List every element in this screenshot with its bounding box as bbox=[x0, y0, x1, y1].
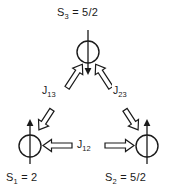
spin-triangle-figure: S3 = 5/2 S1 = 2 S2 = 5/2 J13 J23 J12 bbox=[0, 0, 179, 193]
spin-label-s2: S2 = 5/2 bbox=[105, 171, 146, 183]
spin-arrowhead-s2-up bbox=[144, 119, 151, 126]
coupling-label-j12-subscript: 12 bbox=[82, 144, 90, 153]
coupling-label-j13-subscript: 13 bbox=[47, 90, 55, 99]
coupling-label-j23-subscript: 23 bbox=[118, 90, 126, 99]
coupling-label-j23: J23 bbox=[112, 84, 128, 96]
spin-label-s1: S1 = 2 bbox=[6, 171, 37, 183]
spin-label-s1-subscript: 1 bbox=[14, 177, 18, 186]
spin-arrowhead-s1-up bbox=[27, 119, 34, 126]
spin-label-s3-equals: = bbox=[69, 6, 82, 18]
coupling-arrow-j13 bbox=[34, 61, 88, 133]
spin-label-s2-value: 5/2 bbox=[130, 171, 146, 183]
spin-label-s2-equals: = bbox=[117, 171, 130, 183]
spin-label-s2-subscript: 2 bbox=[113, 177, 117, 186]
spin-label-s3-value: 5/2 bbox=[82, 6, 98, 18]
arrow-j13-to-s3 bbox=[62, 61, 87, 91]
spin-triangle-canvas bbox=[0, 0, 179, 193]
spin-arrowhead-s3-down bbox=[85, 68, 92, 75]
spin-label-s1-symbol: S bbox=[6, 171, 14, 183]
spin-label-s3-symbol: S bbox=[57, 6, 65, 18]
spin-label-s1-value: 2 bbox=[31, 171, 37, 183]
coupling-label-j12: J12 bbox=[76, 138, 92, 150]
coupling-label-j13: J13 bbox=[41, 84, 57, 96]
arrow-j23-to-s2 bbox=[120, 107, 143, 134]
spin-label-s3-subscript: 3 bbox=[65, 12, 69, 21]
spin-label-s1-equals: = bbox=[18, 171, 31, 183]
site-s1 bbox=[19, 119, 41, 164]
coupling-arrow-j23 bbox=[91, 61, 144, 133]
arrow-j12-right bbox=[105, 140, 134, 152]
site-s2 bbox=[136, 119, 158, 164]
arrow-j12-left bbox=[43, 140, 72, 152]
spin-label-s3: S3 = 5/2 bbox=[57, 6, 98, 18]
spin-label-s2-symbol: S bbox=[105, 171, 113, 183]
arrow-j13-to-s1 bbox=[34, 107, 57, 134]
